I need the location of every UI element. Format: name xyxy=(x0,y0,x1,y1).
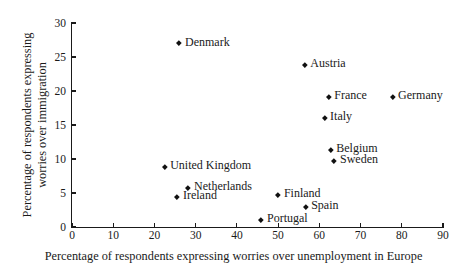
x-tick-label: 80 xyxy=(387,229,417,242)
data-point-label: Spain xyxy=(311,199,338,212)
x-tick-label: 50 xyxy=(263,229,293,242)
data-point-label: United Kingdom xyxy=(170,159,251,172)
data-point-label: Portugal xyxy=(267,212,308,225)
x-tick-label: 70 xyxy=(346,229,376,242)
y-axis-title-line-2: worries over immigration xyxy=(35,15,50,235)
y-axis-title: Percentage of respondents expressing wor… xyxy=(20,15,50,235)
diamond-marker-icon xyxy=(175,194,180,199)
y-axis-title-line-1: Percentage of respondents expressing xyxy=(20,15,35,235)
scatter-chart-figure: 0102030405060708090 051015202530 Denmark… xyxy=(0,0,467,272)
diamond-marker-icon xyxy=(390,94,395,99)
diamond-marker-icon xyxy=(259,217,264,222)
diamond-marker-icon xyxy=(328,147,333,152)
x-tick-label: 90 xyxy=(428,229,458,242)
data-point-label: Germany xyxy=(398,89,443,102)
diamond-marker-icon xyxy=(276,192,281,197)
data-point-label: Italy xyxy=(330,110,352,123)
x-axis-title: Percentage of respondents expressing wor… xyxy=(0,249,467,264)
data-point-label: Austria xyxy=(310,57,345,70)
x-tick-label: 30 xyxy=(181,229,211,242)
diamond-marker-icon xyxy=(162,164,167,169)
diamond-marker-icon xyxy=(302,62,307,67)
diamond-marker-icon xyxy=(303,204,308,209)
x-tick-label: 20 xyxy=(139,229,169,242)
diamond-marker-icon xyxy=(177,41,182,46)
plot-area: DenmarkAustriaFranceGermanyItalyBelgiumS… xyxy=(72,23,443,227)
data-point-label: France xyxy=(334,89,367,102)
diamond-marker-icon xyxy=(322,115,327,120)
x-tick-label: 10 xyxy=(98,229,128,242)
x-tick-label: 60 xyxy=(304,229,334,242)
diamond-marker-icon xyxy=(332,158,337,163)
data-point-label: Denmark xyxy=(185,36,230,49)
data-point-label: Sweden xyxy=(340,153,378,166)
data-point-label: Ireland xyxy=(183,189,217,202)
diamond-marker-icon xyxy=(326,94,331,99)
x-tick-label: 40 xyxy=(222,229,252,242)
